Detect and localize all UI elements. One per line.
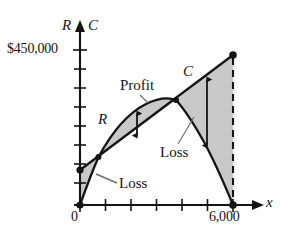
loss-region-left-label: Loss [119, 176, 147, 191]
x-axis-label: x [266, 195, 273, 210]
loss-left-leader-line [96, 174, 117, 183]
y-axis-arrowhead [75, 20, 85, 32]
profit-region-label: Profit [120, 78, 154, 93]
y-axis-label-revenue: R [62, 18, 71, 33]
x-axis-max-tick-label: 6,000 [209, 210, 240, 224]
break-even-left-point [96, 154, 102, 160]
figure-canvas [0, 0, 284, 248]
y-axis-label-cost: C [88, 18, 98, 33]
cost-intercept-point [76, 166, 83, 173]
loss-right-leader-line [178, 117, 194, 144]
origin-label: 0 [71, 210, 78, 224]
y-axis-max-tick-label: $450,000 [7, 42, 58, 56]
loss-region-right-label: Loss [160, 145, 188, 160]
revenue-endpoint-point [229, 201, 237, 209]
cost-endpoint-point [229, 51, 237, 59]
revenue-curve-label: R [98, 112, 107, 127]
profit-leader-line [140, 95, 148, 103]
cost-curve-label: C [183, 64, 193, 79]
x-axis-arrowhead [252, 200, 264, 210]
origin-point [76, 201, 83, 208]
break-even-figure: R C $450,000 0 6,000 x R C Profit Loss L… [0, 0, 284, 248]
break-even-right-point [173, 97, 179, 103]
